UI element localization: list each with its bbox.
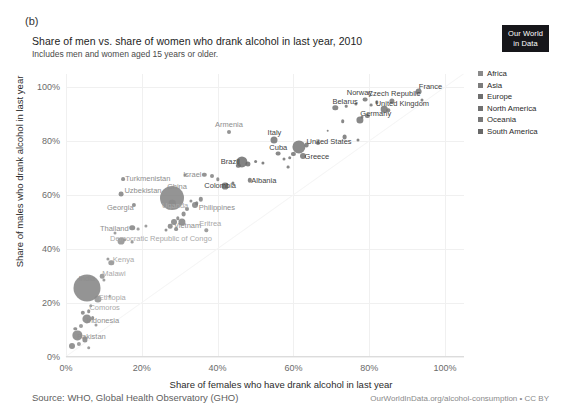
data-point[interactable] [185,207,189,211]
legend-swatch-icon [478,94,483,99]
data-point[interactable] [222,182,229,189]
data-point[interactable] [245,162,250,167]
data-point[interactable] [165,229,168,232]
data-point[interactable] [282,157,285,160]
gridline-vertical [369,74,370,357]
data-point[interactable] [345,105,348,108]
data-point[interactable] [87,346,91,350]
data-point[interactable] [363,97,368,102]
data-point[interactable] [210,174,214,178]
y-axis-title: Share of males who drank alcohol in last… [14,57,25,287]
data-point[interactable] [354,102,357,105]
data-point[interactable] [248,178,252,182]
data-point[interactable] [271,137,278,144]
data-point[interactable] [341,119,345,123]
data-point-label: Cuba [269,142,287,151]
data-point[interactable] [205,229,208,232]
x-tick-label: 20% [122,363,162,373]
data-point[interactable] [288,156,292,160]
data-point[interactable] [87,309,91,313]
data-point[interactable] [262,161,265,164]
data-point[interactable] [174,227,178,231]
data-point[interactable] [123,238,127,242]
data-point[interactable] [184,174,187,177]
legend-swatch-icon [478,71,483,76]
legend-item-asia[interactable]: Asia [478,80,558,92]
data-point[interactable] [300,153,306,159]
data-point[interactable] [386,109,389,112]
data-point[interactable] [109,260,114,265]
data-point[interactable] [102,279,105,282]
data-point[interactable] [95,323,98,326]
data-point[interactable] [291,151,295,155]
chart-title: Share of men vs. share of women who dran… [32,35,362,47]
data-point[interactable] [286,166,289,169]
data-point[interactable] [178,219,185,226]
data-point[interactable] [216,177,219,180]
data-point[interactable] [198,197,202,201]
data-point[interactable] [131,241,134,244]
data-point[interactable] [360,116,363,119]
data-point[interactable] [415,88,422,95]
legend-swatch-icon [478,129,483,134]
data-point[interactable] [137,228,140,231]
logo-line-1: Our World [502,29,549,39]
data-point[interactable] [168,224,173,229]
data-point[interactable] [236,163,240,167]
y-tick-label: 40% [24,244,60,254]
x-tick-label: 60% [273,363,313,373]
data-point[interactable] [130,225,136,231]
data-point[interactable] [119,192,124,197]
data-point[interactable] [304,143,309,148]
data-point-label: Armenia [215,119,243,128]
data-point[interactable] [231,182,234,185]
data-point[interactable] [254,160,258,164]
data-point[interactable] [227,130,231,134]
data-point[interactable] [202,173,206,177]
data-point[interactable] [276,151,281,156]
data-point[interactable] [370,104,373,107]
data-point[interactable] [114,232,117,235]
legend-item-label: Africa [487,69,507,78]
legend-item-oceania[interactable]: Oceania [478,114,558,126]
data-point[interactable] [73,331,82,340]
data-point[interactable] [89,304,92,307]
legend-item-south-america[interactable]: South America [478,126,558,138]
x-tick-label: 100% [425,363,465,373]
data-point[interactable] [181,212,186,217]
data-point[interactable] [326,129,329,132]
data-point[interactable] [316,141,320,145]
data-point[interactable] [91,316,95,320]
data-point-label: Ethiopia [99,293,126,302]
data-point[interactable] [195,202,199,206]
data-point[interactable] [108,295,111,298]
data-point[interactable] [342,135,347,140]
data-point[interactable] [95,295,102,302]
data-point[interactable] [144,225,147,228]
gridline-horizontal [66,249,464,250]
data-point[interactable] [389,98,394,103]
data-point-label: Turkmenistan [125,174,170,183]
data-point[interactable] [332,105,337,110]
source-note: Source: WHO, Global Health Observatory (… [32,392,238,403]
data-point[interactable] [69,343,75,349]
data-point[interactable] [421,98,424,101]
scatter-plot-area: FranceCzech RepublicNorwayUnited Kingdom… [66,74,464,357]
data-point[interactable] [132,203,136,207]
legend-item-europe[interactable]: Europe [478,91,558,103]
data-point[interactable] [79,324,83,328]
data-point[interactable] [160,186,184,210]
our-world-in-data-logo[interactable]: Our World in Data [502,25,549,52]
legend-item-africa[interactable]: Africa [478,68,558,80]
legend-item-north-america[interactable]: North America [478,103,558,115]
legend-item-label: Asia [487,81,502,90]
data-point[interactable] [121,177,125,181]
gridline-vertical [445,74,446,357]
gridline-vertical [218,74,219,357]
data-point[interactable] [356,139,359,142]
gridline-vertical [293,74,294,357]
y-tick-label: 60% [24,190,60,200]
legend-item-label: South America [487,127,538,136]
legend-swatch-icon [478,117,483,122]
data-point[interactable] [375,101,378,104]
